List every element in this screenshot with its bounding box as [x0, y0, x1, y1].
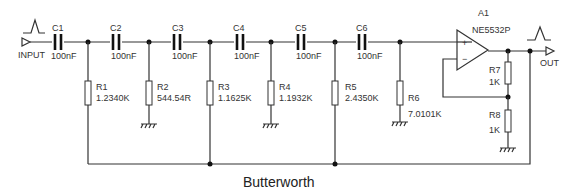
input-label: INPUT — [18, 50, 46, 60]
output-port-icon — [546, 47, 554, 55]
ground-icon — [392, 122, 408, 126]
svg-text:1K: 1K — [489, 77, 500, 87]
svg-text:7.0101K: 7.0101K — [408, 109, 442, 119]
junction-node — [208, 162, 213, 167]
resistor-r6: R6 7.0101K — [397, 42, 442, 122]
svg-text:R7: R7 — [489, 65, 501, 75]
svg-text:R4: R4 — [279, 82, 291, 92]
svg-text:+: + — [462, 38, 467, 48]
svg-text:−: − — [462, 54, 467, 64]
pulse-icon — [23, 20, 45, 33]
diagram-title: Butterworth — [243, 174, 315, 190]
svg-text:100nF: 100nF — [296, 51, 322, 61]
svg-text:C2: C2 — [110, 23, 122, 33]
svg-text:NE5532P: NE5532P — [472, 25, 511, 35]
svg-text:R3: R3 — [218, 82, 230, 92]
svg-text:100nF: 100nF — [172, 51, 198, 61]
svg-text:2.4350K: 2.4350K — [345, 93, 379, 103]
input-port-icon — [22, 38, 30, 46]
pulse-icon — [527, 27, 551, 40]
svg-text:100nF: 100nF — [111, 51, 137, 61]
svg-text:544.54R: 544.54R — [157, 93, 192, 103]
svg-text:C5: C5 — [295, 23, 307, 33]
svg-text:R6: R6 — [408, 93, 420, 103]
svg-text:100nF: 100nF — [234, 51, 260, 61]
resistor-r7: R7 1K — [489, 51, 511, 97]
junction-node — [528, 49, 533, 54]
butterworth-schematic: INPUT C1 100nF C2 100nF C3 100nF C4 100n… — [0, 0, 572, 195]
svg-text:C3: C3 — [172, 23, 184, 33]
junction-node — [333, 162, 338, 167]
ground-icon — [141, 124, 157, 128]
svg-text:100nF: 100nF — [357, 51, 383, 61]
svg-text:1.1625K: 1.1625K — [218, 93, 252, 103]
svg-text:C6: C6 — [356, 23, 368, 33]
ground-icon — [263, 124, 279, 128]
svg-text:100nF: 100nF — [51, 51, 77, 61]
svg-text:R8: R8 — [489, 110, 501, 120]
svg-text:R5: R5 — [345, 82, 357, 92]
resistor-r8: R8 1K — [489, 97, 511, 148]
svg-text:R1: R1 — [96, 82, 108, 92]
svg-text:1K: 1K — [489, 125, 500, 135]
svg-text:1.2340K: 1.2340K — [96, 93, 130, 103]
ground-icon — [500, 148, 516, 152]
opamp-a1: + − A1 NE5532P — [457, 8, 511, 70]
svg-text:R2: R2 — [157, 82, 169, 92]
output-label: OUT — [540, 58, 560, 68]
feedback-bus-wire — [88, 51, 530, 164]
svg-text:C1: C1 — [52, 23, 64, 33]
svg-text:1.1932K: 1.1932K — [279, 93, 313, 103]
svg-text:A1: A1 — [478, 8, 489, 18]
svg-text:C4: C4 — [233, 23, 245, 33]
